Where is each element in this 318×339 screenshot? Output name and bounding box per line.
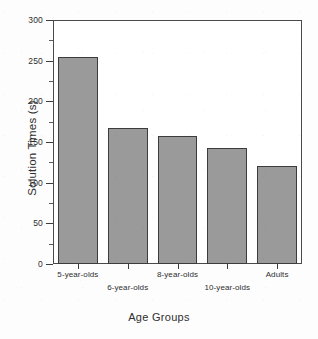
x-axis-tick [227, 264, 228, 269]
x-axis-title: Age Groups [0, 311, 318, 323]
y-axis-tick-major [46, 223, 53, 224]
y-axis-tick-minor [49, 122, 53, 123]
bar [58, 57, 98, 264]
y-axis-tick-major [46, 101, 53, 102]
bar-series [53, 20, 302, 264]
x-axis-tick [128, 264, 129, 269]
y-axis-tick-label: 0 [38, 259, 43, 269]
y-axis-tick-minor [49, 40, 53, 41]
bar [257, 166, 297, 264]
x-axis-tick-label: 6-year-olds [107, 283, 148, 292]
y-axis-tick-major [46, 142, 53, 143]
bar [108, 128, 148, 264]
x-axis-tick-label: 10-year-olds [204, 283, 250, 292]
y-axis-tick-major [46, 183, 53, 184]
bar-chart-figure: 050100150200250300 5-year-olds6-year-old… [0, 0, 318, 339]
x-axis-tick [277, 264, 278, 269]
x-axis-tick-label: 8-year-olds [157, 270, 198, 279]
y-axis-tick-minor [49, 81, 53, 82]
y-axis-tick-minor [49, 244, 53, 245]
y-axis-tick-major [46, 264, 53, 265]
bar [207, 148, 247, 264]
y-axis-tick-major [46, 61, 53, 62]
y-axis-title: Solution Times (s) [26, 68, 38, 228]
y-axis-tick-label: 300 [28, 15, 43, 25]
x-axis-tick-label: Adults [266, 270, 289, 279]
x-axis-tick [78, 264, 79, 269]
x-axis-tick [178, 264, 179, 269]
x-axis-tick-label: 5-year-olds [57, 270, 98, 279]
y-axis-tick-minor [49, 162, 53, 163]
y-axis-tick-minor [49, 203, 53, 204]
y-axis-tick-label: 250 [28, 56, 43, 66]
bar [158, 136, 198, 264]
y-axis-tick-major [46, 20, 53, 21]
